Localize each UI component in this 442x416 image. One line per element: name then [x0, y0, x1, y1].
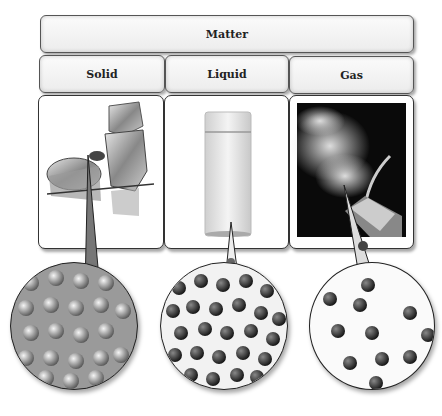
- solid-molecular-model: [10, 262, 138, 390]
- liquid-molecules-icon: [161, 263, 287, 389]
- gas-molecules-icon: [310, 263, 434, 389]
- liquid-molecular-model: [160, 262, 288, 390]
- solid-lattice-icon: [11, 263, 137, 389]
- gas-molecular-model: [309, 262, 435, 390]
